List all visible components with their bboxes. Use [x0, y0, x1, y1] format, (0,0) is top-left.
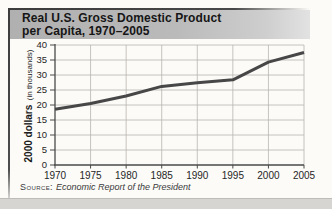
- bottom-page-strip: [0, 198, 332, 209]
- y-tick-label: 25: [36, 84, 47, 95]
- y-tick-label: 5: [42, 144, 47, 155]
- y-tick-label: 15: [36, 114, 47, 125]
- source-text: Economic Report of the President: [56, 182, 191, 192]
- x-tick-label: 1975: [79, 170, 102, 181]
- y-tick-label: 40: [36, 39, 47, 50]
- gdp-data-line: [55, 53, 304, 110]
- y-axis-title: 2000 dollars (in thousands): [18, 41, 32, 171]
- x-tick-label: 1970: [44, 170, 67, 181]
- x-tick-label: 2000: [257, 170, 280, 181]
- y-tick-label: 35: [36, 54, 47, 65]
- y-tick-label: 10: [36, 129, 47, 140]
- gdp-line-chart: 0510152025303540197019751980198519901995…: [0, 0, 332, 209]
- x-tick-label: 1985: [151, 170, 174, 181]
- y-axis-title-main: 2000 dollars: [23, 105, 34, 163]
- y-axis-title-note: (in thousands): [25, 50, 34, 101]
- x-tick-label: 1990: [186, 170, 209, 181]
- x-tick-label: 2005: [293, 170, 316, 181]
- x-tick-label: 1995: [222, 170, 245, 181]
- y-tick-label: 30: [36, 69, 47, 80]
- source-prefix: Source:: [20, 182, 53, 192]
- y-tick-label: 20: [36, 99, 47, 110]
- source-line: Source:Economic Report of the President: [20, 182, 191, 192]
- x-tick-label: 1980: [115, 170, 138, 181]
- scanned-textbook-page: { "title": { "line1": "Real U.S. Gross D…: [0, 0, 332, 209]
